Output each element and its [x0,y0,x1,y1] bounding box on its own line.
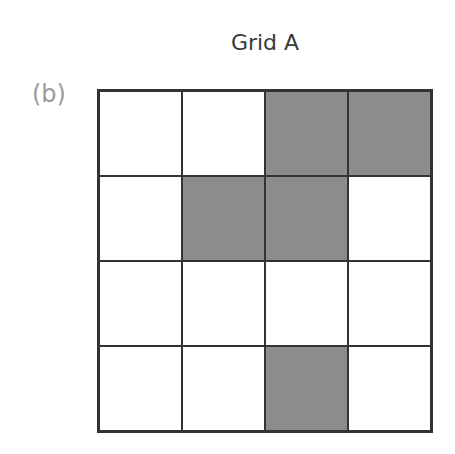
filled-cell-r2-c2 [182,176,265,261]
empty-cell-r2-c1 [99,176,182,261]
filled-cell-r1-c3 [265,91,348,176]
empty-cell-r4-c2 [182,346,265,431]
empty-cell-r1-c2 [182,91,265,176]
panel-label: (b) [32,80,66,108]
empty-cell-r3-c4 [348,261,431,346]
filled-cell-r2-c3 [265,176,348,261]
empty-cell-r1-c1 [99,91,182,176]
empty-cell-r3-c3 [265,261,348,346]
empty-cell-r4-c4 [348,346,431,431]
empty-cell-r3-c1 [99,261,182,346]
filled-cell-r1-c4 [348,91,431,176]
empty-cell-r4-c1 [99,346,182,431]
empty-cell-r3-c2 [182,261,265,346]
grid-a [97,89,433,433]
filled-cell-r4-c3 [265,346,348,431]
empty-cell-r2-c4 [348,176,431,261]
grid-title: Grid A [0,30,455,55]
